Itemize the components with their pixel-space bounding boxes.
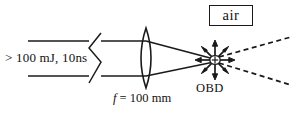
figure-container: > 100 mJ, 10ns f = 100 mm OBD air [0,0,294,114]
focal-length-value: = 100 mm [116,91,171,105]
focusing-lens-icon [141,28,151,88]
breakdown-label: OBD [196,82,224,95]
breakdown-starburst-icon [195,40,235,80]
focal-length-label: f = 100 mm [113,92,171,105]
diverging-dashed-ray-lower [219,63,291,85]
diverging-dashed-ray-upper [219,37,291,57]
beam-break-zigzag-icon [89,33,101,83]
medium-box: air [209,5,253,26]
beam-source-label: > 100 mJ, 10ns [5,51,87,64]
medium-label: air [210,6,252,25]
